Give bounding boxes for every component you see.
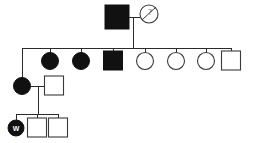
individual-III-1-affected-female-circle[interactable] [14,78,31,95]
individual-II-8-unaffected-male-square[interactable] [222,51,241,70]
pedigree-chart: ? [0,0,254,143]
individual-I-1-affected-male-square[interactable] [105,5,129,29]
question-mark-label: ? [148,8,152,17]
pedigree-canvas: ? [0,0,254,143]
individual-II-7-unaffected-female-circle[interactable] [198,53,215,70]
individual-II-2-affected-female-circle[interactable] [42,53,59,70]
individual-II-4-affected-male-square[interactable] [104,51,123,70]
generation-1-group: ? [105,5,158,48]
generation-3-group [14,76,64,114]
individual-IV-3-unaffected-male-square[interactable] [49,118,68,137]
individual-II-5-unaffected-female-circle[interactable] [137,53,154,70]
individual-II-6-unaffected-female-circle[interactable] [168,53,185,70]
proband-marker-label: W [13,125,20,132]
generation-4-group: W [8,114,68,137]
individual-III-2-unaffected-male-square[interactable] [45,76,64,95]
individual-IV-2-unaffected-male-square[interactable] [28,118,47,137]
generation-2-group [22,48,241,77]
individual-II-3-affected-female-circle[interactable] [73,53,90,70]
